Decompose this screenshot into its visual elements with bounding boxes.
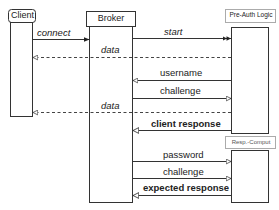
- respcomput-label: Resp.-Comput: [226, 139, 276, 145]
- msg-expected-response-label: expected response: [143, 183, 229, 193]
- preauth-label: Pre-Auth Logic: [226, 12, 276, 19]
- client-activation-bar: [11, 23, 33, 117]
- preauth-activation-bar: [232, 28, 269, 134]
- msg-client-response-label: client response: [151, 119, 221, 129]
- participant-client: [9, 10, 36, 117]
- msg-data1-label: data: [101, 45, 120, 55]
- msg-connect-label: connect: [37, 28, 70, 38]
- msg-challenge2-label: challenge: [163, 167, 204, 177]
- participant-preauth-logic: [226, 10, 276, 134]
- client-label: Client: [10, 11, 35, 20]
- msg-start-label: start: [164, 27, 182, 37]
- participant-resp-comput: [226, 137, 276, 203]
- broker-label: Broker: [87, 14, 135, 23]
- msg-password-label: password: [163, 150, 204, 160]
- msg-challenge1-label: challenge: [160, 86, 201, 96]
- respcomput-activation-bar: [232, 151, 269, 203]
- msg-data2-label: data: [101, 101, 120, 111]
- msg-username-label: username: [160, 68, 202, 78]
